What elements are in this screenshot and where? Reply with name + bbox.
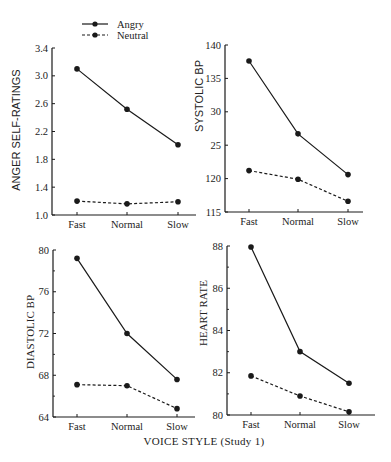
series-line-angry [251,247,349,383]
y-tick-label: 2.6 [35,98,48,109]
data-point-angry [246,58,252,64]
data-point-neutral [175,199,181,205]
legend-item-neutral: Neutral [82,30,149,41]
legend: Angry Neutral [82,19,149,41]
data-point-angry [297,349,303,355]
x-category-label: Slow [338,419,360,430]
y-tick-label: 2.2 [35,126,48,137]
y-tick-label: 68 [39,370,50,381]
chart-anger-self-ratings: 1.01.41.82.22.63.03.4FastNormalSlowANGER… [10,43,196,231]
data-point-neutral [248,373,254,379]
data-point-angry [346,381,352,387]
x-category-label: Fast [242,419,260,430]
x-category-label: Fast [240,216,258,227]
legend-label: Angry [117,19,145,30]
series-line-neutral [249,171,348,202]
x-category-label: Fast [68,219,86,230]
data-point-neutral [124,383,130,389]
x-category-label: Slow [337,216,359,227]
data-point-angry [345,172,351,178]
y-tick-label: 64 [39,412,50,423]
y-axis-label: ANGER SELF-RATINGS [10,69,22,190]
y-tick-label: 84 [213,325,224,336]
data-point-neutral [246,168,252,174]
legend-label: Neutral [117,30,149,41]
legend-item-angry: Angry [82,19,145,30]
y-axis-label: DIASTOLIC BP [24,295,36,369]
data-point-neutral [295,176,301,182]
y-tick-label: 30 [211,106,222,117]
series-line-angry [249,61,348,175]
y-tick-label: 140 [205,40,221,51]
data-point-angry [174,377,180,383]
y-tick-label: 1.0 [35,210,48,221]
x-axis-caption: VOICE STYLE (Study 1) [144,435,265,448]
y-tick-label: 88 [213,241,224,252]
y-tick-label: 86 [213,283,224,294]
data-point-neutral [297,393,303,399]
data-point-neutral [74,198,80,204]
data-point-neutral [124,201,130,207]
x-category-label: Slow [167,219,189,230]
data-point-angry [74,66,80,72]
marker-dot-icon [92,32,97,37]
y-tick-label: 120 [205,173,221,184]
y-tick-label: 3.0 [35,70,48,81]
y-tick-label: 115 [206,207,221,218]
y-axis-label: HEART RATE [197,280,209,346]
data-point-angry [124,106,130,112]
data-point-angry [248,244,254,250]
y-tick-label: 25 [211,140,222,151]
figure: Angry Neutral 1.01.41.82.22.63.03.4FastN… [0,0,391,462]
y-tick-label: 76 [39,286,50,297]
y-tick-label: 82 [213,367,224,378]
data-point-neutral [346,409,352,415]
y-axis-label: SYSTOLIC BP [193,60,205,132]
y-tick-label: 135 [205,73,221,84]
chart-heart-rate: 8082848688FastNormalSlowHEART RATE [197,241,375,431]
x-category-label: Normal [282,216,314,227]
y-tick-label: 1.8 [35,154,48,165]
series-line-angry [77,258,177,379]
data-point-neutral [174,406,180,412]
x-category-label: Fast [68,421,86,432]
marker-dot-icon [92,21,97,26]
y-tick-label: 1.4 [35,182,49,193]
chart-diastolic-bp: 6468727680FastNormalSlowDIASTOLIC BP [24,245,195,433]
y-tick-label: 80 [213,410,224,421]
data-point-neutral [345,199,351,205]
data-point-angry [175,142,181,148]
x-category-label: Normal [111,219,143,230]
chart-systolic-bp: 1151202530135140FastNormalSlowSYSTOLIC B… [193,40,363,228]
x-category-label: Normal [111,421,143,432]
data-point-angry [124,331,130,337]
y-tick-label: 80 [39,245,50,256]
x-category-label: Slow [166,421,188,432]
data-point-angry [295,131,301,137]
y-tick-label: 3.4 [35,43,49,54]
y-tick-label: 72 [39,328,50,339]
data-point-neutral [74,382,80,388]
x-category-label: Normal [284,419,316,430]
data-point-angry [74,256,80,262]
